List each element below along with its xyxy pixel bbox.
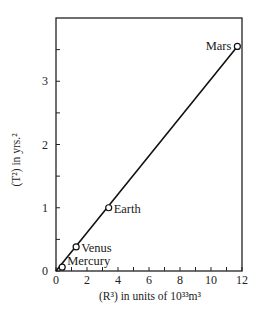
- x-tick-label: 6: [146, 273, 152, 287]
- x-axis-title: (R³) in units of 10³³m³: [99, 290, 202, 303]
- y-tick-label: 1: [42, 201, 48, 215]
- data-point-label: Mercury: [67, 254, 111, 268]
- y-tick-label: 0: [42, 264, 48, 278]
- data-point-label: Mars: [206, 39, 232, 53]
- plot-frame: [56, 18, 242, 271]
- x-tick-label: 8: [177, 273, 183, 287]
- y-tick-label: 2: [42, 138, 48, 152]
- plot-border: [56, 18, 242, 271]
- y-tick-label: 3: [42, 74, 48, 88]
- axis-ticks: 0246810120123: [42, 50, 248, 287]
- x-tick-label: 12: [236, 273, 248, 287]
- data-point-marker: [106, 205, 112, 211]
- x-tick-label: 2: [84, 273, 90, 287]
- data-point-marker: [234, 43, 240, 49]
- chart: 0246810120123 MercuryVenusEarthMars (R³)…: [0, 0, 264, 318]
- data-point-label: Earth: [114, 202, 142, 216]
- x-tick-label: 10: [205, 273, 217, 287]
- data-point-marker: [59, 264, 65, 270]
- data-point-marker: [73, 244, 79, 250]
- fit-line: [56, 46, 237, 271]
- x-tick-label: 4: [115, 273, 121, 287]
- x-tick-label: 0: [53, 273, 59, 287]
- y-axis-title: (T²) in yrs.²: [10, 133, 23, 187]
- data-point-label: Venus: [81, 241, 112, 255]
